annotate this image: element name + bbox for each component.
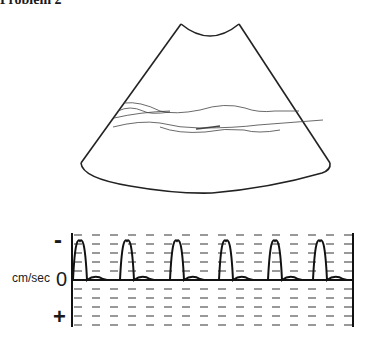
fan-bottom-arc bbox=[81, 163, 330, 193]
fan-left-edge bbox=[81, 24, 181, 163]
figure-canvas bbox=[0, 0, 370, 346]
fan-top-arc bbox=[181, 24, 239, 36]
doppler-spectrum-panel bbox=[72, 233, 353, 327]
ultrasound-fan bbox=[81, 24, 330, 193]
zero-label: 0 bbox=[56, 269, 67, 289]
tissue-layers bbox=[113, 103, 323, 133]
doppler-waveform bbox=[73, 240, 347, 280]
negative-sign-label: - bbox=[54, 228, 62, 252]
positive-sign-label: + bbox=[53, 306, 66, 328]
velocity-unit-label: cm/sec bbox=[12, 272, 50, 284]
fan-right-edge bbox=[239, 24, 330, 163]
